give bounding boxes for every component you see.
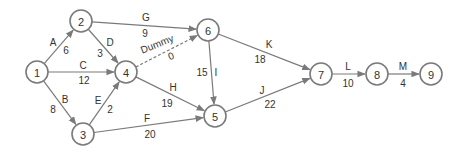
node-9: 9: [420, 63, 442, 85]
edge-a-arrow: [44, 30, 73, 64]
edge-dummy-duration: 0: [166, 50, 176, 62]
edge-d-duration: 3: [97, 48, 103, 59]
edge-f-duration: 20: [144, 129, 156, 140]
edge-h-name: H: [169, 82, 176, 93]
edge-b-name: B: [62, 94, 69, 105]
edge-g-name: G: [142, 12, 150, 23]
node-label: 4: [123, 67, 129, 79]
edge-m-duration: 4: [400, 78, 406, 89]
node-1: 1: [26, 61, 48, 83]
edge-c-name: C: [79, 60, 86, 71]
edge-d-name: D: [106, 37, 113, 48]
edge-b-arrow: [44, 81, 76, 125]
node-3: 3: [72, 123, 94, 145]
edge-labels-layer: A6B8C12D3E2F20G9H19Dummy0I15J22K18L10M4: [50, 12, 408, 140]
edge-k-name: K: [266, 39, 273, 50]
node-8: 8: [366, 63, 388, 85]
network-diagram: 123456789 A6B8C12D3E2F20G9H19Dummy0I15J2…: [0, 0, 470, 153]
node-5: 5: [204, 105, 226, 127]
node-4: 4: [115, 61, 137, 83]
edge-i-duration: 15: [196, 67, 208, 78]
node-6: 6: [197, 19, 219, 41]
node-label: 7: [318, 69, 324, 81]
node-7: 7: [310, 63, 332, 85]
edge-i-name: I: [215, 67, 218, 78]
edge-f-name: F: [144, 113, 150, 124]
edge-c-duration: 12: [78, 75, 90, 86]
node-2: 2: [70, 10, 92, 32]
node-label: 6: [205, 25, 211, 37]
edge-e-name: E: [95, 95, 102, 106]
edge-e-duration: 2: [107, 104, 113, 115]
edge-m-name: M: [399, 61, 407, 72]
node-label: 1: [34, 67, 40, 79]
edge-j-duration: 22: [264, 99, 276, 110]
edge-l-duration: 10: [342, 78, 354, 89]
edges-layer: [44, 22, 419, 133]
edge-a-duration: 6: [63, 45, 69, 56]
edge-l-name: L: [345, 61, 351, 72]
node-label: 5: [212, 111, 218, 123]
edge-i-arrow: [209, 41, 214, 104]
edge-a-name: A: [50, 37, 57, 48]
node-label: 8: [374, 69, 380, 81]
edge-j-name: J: [260, 85, 265, 96]
edge-k-duration: 18: [254, 54, 266, 65]
node-label: 2: [78, 16, 84, 28]
node-label: 3: [80, 129, 86, 141]
edge-h-duration: 19: [161, 98, 173, 109]
edge-g-duration: 9: [142, 28, 148, 39]
edge-b-duration: 8: [50, 104, 56, 115]
node-label: 9: [428, 69, 434, 81]
